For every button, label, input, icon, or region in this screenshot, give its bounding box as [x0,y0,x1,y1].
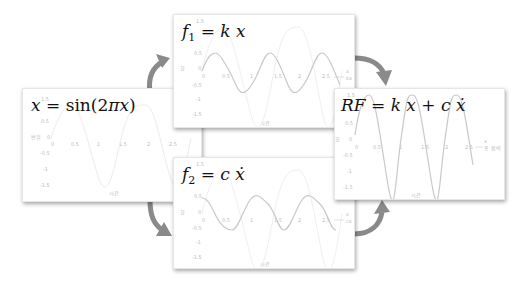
svg-text:0: 0 [202,73,205,79]
equation-input: x = sin(2πx) [31,97,136,114]
svg-text:0: 0 [47,134,50,140]
svg-text:1.5: 1.5 [421,144,429,150]
svg-text:kx: kx [346,75,352,81]
panel-spring-force: 1.5 0.5 힘 0 -0.5 -1 -1.5 0 0.5 1 1.5 2 2… [173,14,355,128]
equation-spring: f1 = k x [182,23,246,43]
svg-text:-1.5: -1.5 [192,254,202,260]
svg-text:0: 0 [355,144,358,150]
svg-text:총 합력: 총 합력 [484,145,501,152]
svg-text:-1.5: -1.5 [343,184,353,190]
svg-text:2: 2 [298,73,301,79]
svg-text:2: 2 [147,141,150,147]
svg-text:-0.5: -0.5 [343,152,353,158]
svg-text:2: 2 [445,144,448,150]
svg-text:-1: -1 [43,166,48,172]
svg-text:x: x [346,211,349,217]
svg-text:0.5: 0.5 [222,73,230,79]
arrow-spring-to-result [352,50,397,90]
svg-text:0.5: 0.5 [194,50,202,56]
svg-text:1.5: 1.5 [274,73,282,79]
svg-text:힘: 힘 [180,209,185,215]
svg-text:힘: 힘 [335,136,340,142]
svg-text:-0.5: -0.5 [192,82,202,88]
svg-text:0.5: 0.5 [71,141,79,147]
svg-text:-1: -1 [196,239,201,245]
arrow-damper-to-result [352,198,397,243]
svg-text:x: x [484,138,487,144]
svg-text:cẋ: cẋ [346,218,352,224]
svg-text:1: 1 [250,217,253,223]
svg-text:1: 1 [250,73,253,79]
svg-text:0: 0 [202,217,205,223]
svg-text:x: x [346,68,349,74]
svg-text:0.5: 0.5 [222,217,230,223]
svg-text:1: 1 [97,141,100,147]
svg-text:힘: 힘 [180,65,185,71]
svg-text:0.5: 0.5 [345,120,353,126]
svg-text:0: 0 [198,209,201,215]
svg-text:-1.5: -1.5 [192,111,202,117]
svg-text:2.5: 2.5 [169,141,177,147]
damper-force-curve [202,196,336,230]
equation-damper: f2 = c ẋ [182,166,245,186]
svg-text:-0.5: -0.5 [192,225,202,231]
svg-text:0: 0 [349,136,352,142]
svg-text:2.5: 2.5 [465,144,473,150]
panel-damper-force: 1.5 0.5 힘 0 -0.5 -1 -1.5 0 0.5 1 1.5 2 2… [173,157,355,269]
svg-text:2: 2 [298,217,301,223]
svg-text:2.5: 2.5 [322,73,330,79]
equation-result: RF = k x + c ẋ [341,97,466,114]
svg-text:변위: 변위 [31,134,41,141]
svg-text:-1.5: -1.5 [40,182,50,188]
panel-resultant-force: 1.5 0.5 힘 0 -0.5 -1 -1.5 0 0.5 1 1.5 2 2… [334,88,505,200]
svg-text:-1: -1 [196,96,201,102]
svg-text:0: 0 [198,65,201,71]
svg-text:시간: 시간 [109,190,119,196]
svg-text:0.5: 0.5 [41,118,49,124]
svg-text:0.5: 0.5 [194,193,202,199]
svg-text:0.5: 0.5 [373,144,381,150]
svg-text:-1: -1 [347,168,352,174]
svg-text:-0.5: -0.5 [40,150,50,156]
svg-text:시간: 시간 [411,192,421,198]
svg-text:0: 0 [51,141,54,147]
